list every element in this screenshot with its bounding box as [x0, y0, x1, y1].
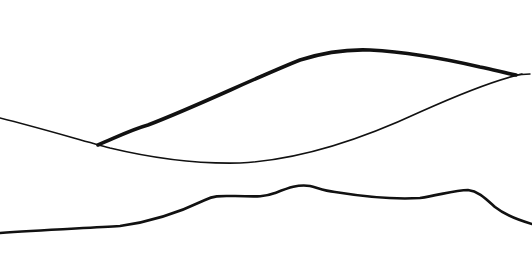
upper-arc-tip [514, 74, 530, 75]
line-drawing-canvas [0, 0, 532, 280]
